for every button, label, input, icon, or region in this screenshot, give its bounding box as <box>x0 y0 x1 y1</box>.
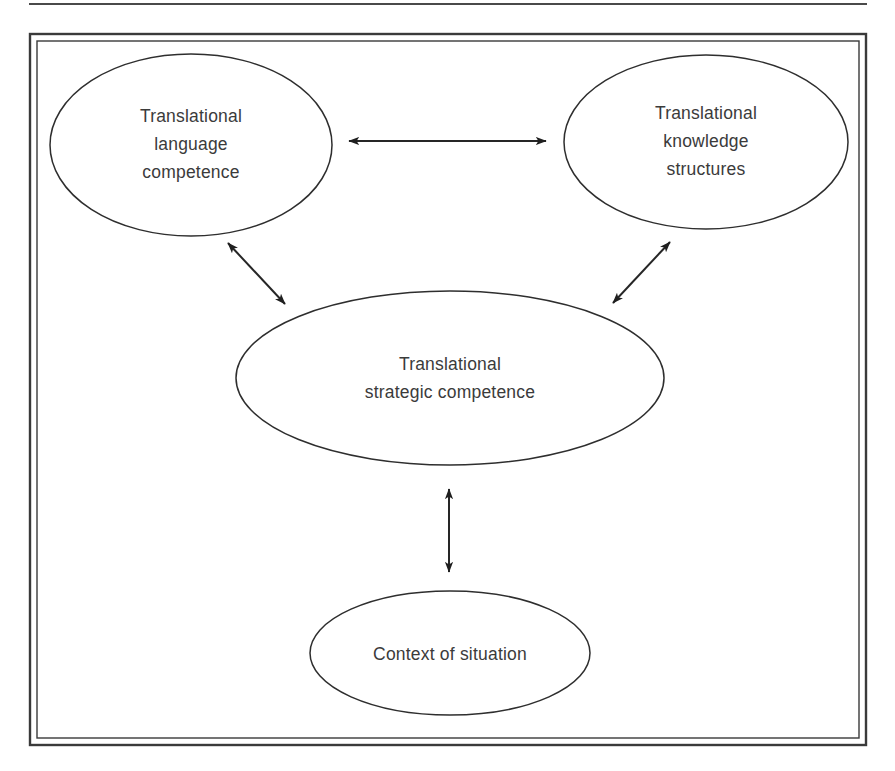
node-translational-strategic-competence[interactable]: Translational strategic competence <box>236 291 664 465</box>
connector-language-to-strategic <box>228 243 285 304</box>
ellipse-shape <box>236 291 664 465</box>
node-translational-knowledge-structures[interactable]: Translational knowledge structures <box>564 55 848 229</box>
node-label: structures <box>667 159 746 179</box>
node-label: competence <box>142 162 239 182</box>
node-label: Translational <box>655 103 757 123</box>
node-label: Translational <box>399 354 501 374</box>
connector-knowledge-to-strategic <box>613 242 670 303</box>
node-translational-language-competence[interactable]: Translational language competence <box>50 54 332 236</box>
node-context-of-situation[interactable]: Context of situation <box>310 591 590 715</box>
node-label: strategic competence <box>365 382 535 402</box>
node-label: Translational <box>140 106 242 126</box>
figure-page: Translational language competence Transl… <box>0 0 895 771</box>
node-label: language <box>154 134 228 154</box>
node-label: knowledge <box>663 131 748 151</box>
node-label: Context of situation <box>373 644 527 664</box>
diagram-canvas: Translational language competence Transl… <box>0 0 895 771</box>
